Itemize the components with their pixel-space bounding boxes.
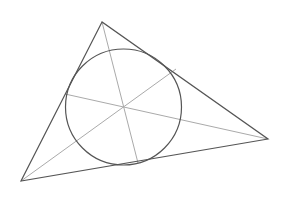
- bisector-from-C: [65, 94, 268, 139]
- bisector-from-B: [21, 69, 176, 181]
- triangle: [21, 22, 268, 181]
- angle-bisectors: [21, 22, 268, 181]
- incircle-diagram: [0, 0, 287, 197]
